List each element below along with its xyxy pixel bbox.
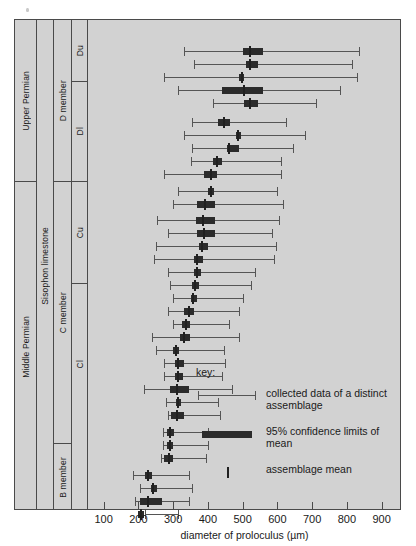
strat-member-label: C member xyxy=(58,292,68,333)
strat-column-era: Upper PermianMiddle Permian xyxy=(15,20,36,509)
legend-mean-label: assemblage mean xyxy=(266,463,394,475)
stratigraphic-column: Upper PermianMiddle Permian Sisophon lim… xyxy=(14,19,88,510)
strat-member-d-member: D member xyxy=(54,20,71,182)
x-tick-label: 600 xyxy=(268,513,286,525)
legend-ci-label: 95% confidence limits of mean xyxy=(266,425,394,449)
x-tick xyxy=(382,502,383,509)
strat-era-label: Middle Permian xyxy=(21,316,31,378)
legend-range-label: collected data of a distinct assemblage xyxy=(266,387,394,411)
x-tick-label: 400 xyxy=(199,513,217,525)
x-tick xyxy=(312,502,313,509)
strat-formation-sisophon-limestone: Sisophon limestone xyxy=(37,20,53,511)
x-tick xyxy=(138,502,139,509)
strat-submember-label: Cu xyxy=(75,227,85,238)
strat-column-submember: DuDlCuCl xyxy=(71,20,88,509)
strat-submember-cu: Cu xyxy=(72,182,88,284)
x-tick-label: 900 xyxy=(372,513,390,525)
x-tick-label: 300 xyxy=(164,513,182,525)
strat-member-label: B member xyxy=(58,457,68,498)
strat-member-c-member: C member xyxy=(54,182,71,444)
legend-range-glyph xyxy=(196,390,258,402)
strat-submember-cl: Cl xyxy=(72,284,88,444)
legend-mean-glyph xyxy=(196,466,258,478)
x-tick-label: 700 xyxy=(303,513,321,525)
x-axis-tick-labels: 100200300400500600700800900 xyxy=(88,513,401,527)
strat-submember-label: Cl xyxy=(75,360,85,368)
strat-submember-label: Dl xyxy=(75,127,85,135)
strat-era-label: Upper Permian xyxy=(21,71,31,131)
x-tick xyxy=(173,502,174,509)
strat-submember-dl: Dl xyxy=(72,82,88,182)
strat-formation-label: Sisophon limestone xyxy=(40,227,50,305)
strat-column-formation: Sisophon limestone xyxy=(36,20,53,509)
figure-root: Upper PermianMiddle Permian Sisophon lim… xyxy=(0,0,416,546)
chart-legend: key: collected data of a distinct assemb… xyxy=(196,366,396,498)
x-tick xyxy=(243,502,244,509)
strat-member-label: D member xyxy=(58,80,68,121)
figure-speck xyxy=(26,8,29,12)
legend-ci-glyph xyxy=(196,428,258,440)
x-tick-label: 100 xyxy=(94,513,112,525)
x-tick xyxy=(277,502,278,509)
x-tick xyxy=(104,502,105,509)
x-tick xyxy=(347,502,348,509)
strat-column-member: D memberC memberB member xyxy=(53,20,71,509)
strat-member-b-member: B member xyxy=(54,444,71,511)
strat-era-upper-permian: Upper Permian xyxy=(15,20,36,182)
x-tick-label: 800 xyxy=(338,513,356,525)
strat-submember-du: Du xyxy=(72,20,88,82)
x-tick xyxy=(208,502,209,509)
x-tick-label: 500 xyxy=(233,513,251,525)
x-tick-label: 200 xyxy=(129,513,147,525)
strat-submember-label: Du xyxy=(75,45,85,56)
strat-era-middle-permian: Middle Permian xyxy=(15,182,36,511)
legend-title: key: xyxy=(196,366,215,378)
x-axis-title: diameter of proloculus (µm) xyxy=(88,529,401,541)
